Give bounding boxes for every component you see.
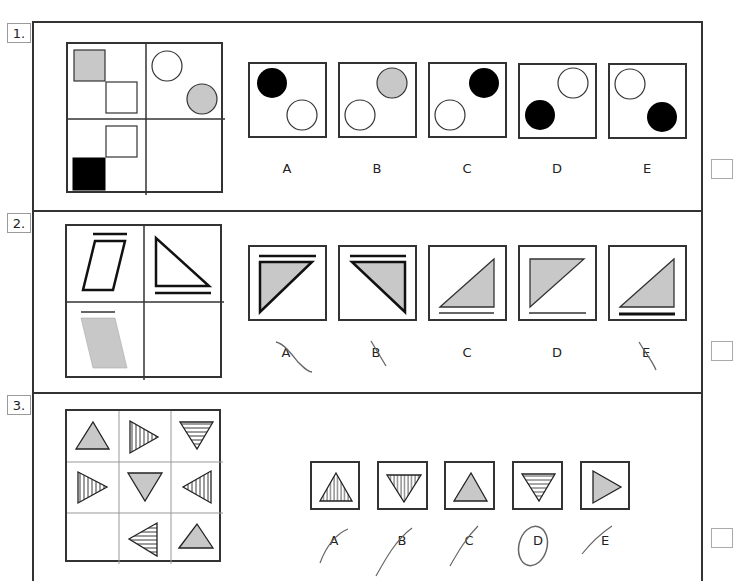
q2-matrix (65, 224, 222, 378)
q1-label-b: B (367, 161, 387, 176)
q1-option-b[interactable] (338, 62, 417, 138)
q2-label-d: D (547, 345, 567, 360)
q2-option-d[interactable] (518, 245, 597, 321)
q2-label-e: E (636, 345, 656, 360)
section-divider-1 (32, 210, 703, 212)
q3-matrix (65, 409, 221, 562)
q1-answer-box[interactable] (711, 159, 733, 179)
q1-label-e: E (637, 161, 657, 176)
q2-option-a[interactable] (248, 245, 327, 321)
question-number-1: 1. (7, 23, 31, 43)
question-number-3: 3. (7, 395, 31, 415)
q2-option-c[interactable] (428, 245, 507, 321)
q3-answer-box[interactable] (711, 528, 733, 548)
q3-option-e[interactable] (580, 461, 630, 510)
q1-option-d[interactable] (518, 63, 597, 139)
q1-option-c[interactable] (428, 62, 507, 138)
q2-label-a: A (276, 345, 296, 360)
q3-label-e: E (595, 533, 615, 548)
q3-option-b[interactable] (377, 461, 428, 510)
q3-label-b: B (392, 533, 412, 548)
q3-label-c: C (459, 533, 479, 548)
q2-label-b: B (366, 345, 386, 360)
q1-label-a: A (277, 161, 297, 176)
q2-option-b[interactable] (338, 245, 417, 321)
q1-option-e[interactable] (608, 63, 687, 139)
q3-option-d[interactable] (512, 461, 563, 510)
q1-option-a[interactable] (248, 62, 327, 138)
q1-label-d: D (547, 161, 567, 176)
q3-label-d: D (528, 533, 548, 548)
q3-option-c[interactable] (444, 461, 495, 510)
q2-label-c: C (457, 345, 477, 360)
q3-label-a: A (324, 533, 344, 548)
q3-option-a[interactable] (310, 461, 360, 510)
q1-matrix (66, 42, 223, 193)
q2-answer-box[interactable] (711, 341, 733, 361)
question-number-2: 2. (7, 213, 31, 233)
q1-label-c: C (457, 161, 477, 176)
section-divider-2 (32, 392, 703, 394)
q2-option-e[interactable] (608, 245, 687, 321)
